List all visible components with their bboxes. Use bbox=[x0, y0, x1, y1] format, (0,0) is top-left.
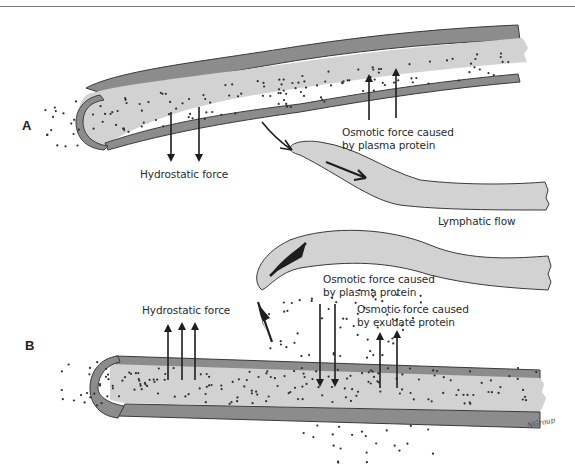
edema-forces-diagram: A B Hydrostatic force Osmotic force caus… bbox=[0, 0, 575, 473]
label-osmotic-plasma-a-2: by plasma protein bbox=[342, 139, 435, 152]
capillary-b bbox=[90, 356, 546, 428]
label-osmotic-exudate-b-2: by exudate protein bbox=[357, 316, 455, 329]
panel-letter-b: B bbox=[25, 338, 34, 353]
diagram-graphics bbox=[0, 0, 575, 473]
label-lymphatic-flow: Lymphatic flow bbox=[438, 215, 515, 228]
label-osmotic-plasma-b-1: Osmotic force caused bbox=[323, 273, 435, 286]
label-osmotic-plasma-a-1: Osmotic force caused bbox=[342, 126, 454, 139]
label-hydrostatic-b: Hydrostatic force bbox=[142, 304, 230, 317]
flow-arrow-into-lymphatic-b bbox=[258, 302, 272, 342]
flow-arrow-into-lymphatic bbox=[262, 122, 292, 150]
label-osmotic-exudate-b-1: Osmotic force caused bbox=[357, 303, 469, 316]
panel-letter-a: A bbox=[22, 118, 31, 133]
capillary-a bbox=[76, 25, 528, 150]
label-osmotic-plasma-b-2: by plasma protein bbox=[323, 286, 416, 299]
label-hydrostatic-a: Hydrostatic force bbox=[140, 168, 228, 181]
